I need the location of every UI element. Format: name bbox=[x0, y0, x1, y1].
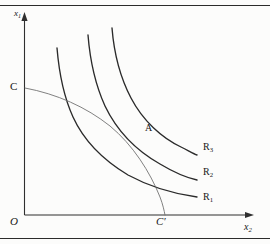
curve-label-r3: R3 bbox=[203, 142, 213, 154]
x-axis-arrowhead bbox=[245, 212, 254, 218]
y-axis-arrowhead bbox=[21, 12, 27, 21]
curve-label-r2: R2 bbox=[203, 167, 213, 179]
intercept-c-label: C bbox=[10, 81, 17, 92]
intercept-c-prime-label: C′ bbox=[156, 216, 166, 227]
origin-label: O bbox=[10, 216, 18, 227]
transformation-curve-cc bbox=[25, 88, 165, 215]
indifference-curve-r1 bbox=[57, 48, 197, 197]
diagram-plot bbox=[0, 0, 270, 244]
figure-canvas: x1 x2 O C C′ A R3 R2 R1 bbox=[0, 0, 270, 244]
curve-label-r1: R1 bbox=[203, 192, 213, 204]
tangency-point-label: A bbox=[145, 123, 152, 133]
y-axis-label: x1 bbox=[14, 9, 21, 19]
x-axis-label: x2 bbox=[244, 222, 252, 234]
